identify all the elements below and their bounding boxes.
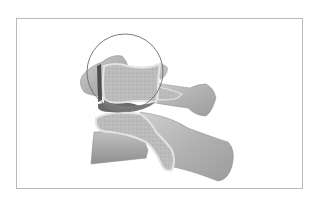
upper-vertebral-body-section bbox=[103, 64, 160, 103]
lower-vertebra bbox=[91, 112, 233, 181]
vertebra-illustration bbox=[0, 0, 318, 200]
